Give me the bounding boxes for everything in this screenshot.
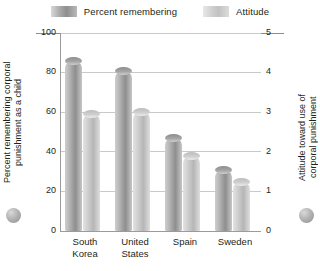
bar-cap-icon (83, 110, 100, 118)
right-axis-tick-2: 2 (266, 146, 292, 156)
legend-item-attitude: Attitude (203, 6, 269, 17)
bar-cap-icon (165, 134, 182, 142)
bar-group-spain (164, 33, 208, 231)
x-axis-categories: SouthKorea UnitedStates Spain Sweden (60, 236, 260, 259)
bar-percent-south-korea (65, 61, 82, 231)
left-axis-tick-40: 40 (30, 146, 56, 156)
chart-legend: Percent remembering Attitude (0, 6, 320, 17)
bar-percent-sweden (215, 170, 232, 231)
x-axis-label-spain: Spain (163, 236, 207, 259)
chart-figure: Percent remembering Attitude 100 80 60 4… (0, 0, 320, 271)
right-axis-tick-5: 5 (266, 27, 292, 37)
left-axis-tick-100: 100 (30, 27, 56, 37)
bar-cap-icon (183, 152, 200, 160)
bar-cap-icon (215, 166, 232, 174)
legend-label-attitude: Attitude (236, 6, 269, 17)
bar-attitude-spain (183, 156, 200, 231)
legend-label-percent-remembering: Percent remembering (84, 6, 177, 17)
x-axis-label-south-korea: SouthKorea (63, 236, 107, 259)
bar-percent-spain (165, 138, 182, 231)
left-axis-title: Percent remembering corporal punishment … (2, 42, 23, 202)
legend-swatch-percent-remembering (51, 6, 77, 17)
bar-attitude-united-states (133, 112, 150, 231)
x-axis-label-united-states: UnitedStates (113, 236, 157, 259)
bar-cap-icon (115, 67, 132, 75)
left-axis-tick-60: 60 (30, 106, 56, 116)
right-axis-title: Attitude toward use of corporal punishme… (297, 62, 318, 212)
bar-group-united-states (114, 33, 158, 231)
right-axis-sphere-icon (299, 208, 314, 223)
legend-swatch-attitude (203, 6, 229, 17)
bar-attitude-south-korea (83, 114, 100, 231)
right-axis-tick-1: 1 (266, 185, 292, 195)
x-axis-label-sweden: Sweden (213, 236, 257, 259)
legend-item-percent-remembering: Percent remembering (51, 6, 177, 17)
bar-groups (61, 33, 261, 231)
left-axis-tick-0: 0 (30, 225, 56, 235)
left-axis-tick-20: 20 (30, 185, 56, 195)
bar-cap-icon (133, 108, 150, 116)
bar-group-south-korea (64, 33, 108, 231)
bar-attitude-sweden (233, 182, 250, 232)
left-axis-tick-80: 80 (30, 66, 56, 76)
right-axis-tick-0: 0 (266, 225, 292, 235)
bar-cap-icon (65, 57, 82, 65)
bar-cap-icon (233, 178, 250, 186)
right-axis-tick-3: 3 (266, 106, 292, 116)
left-axis-sphere-icon (6, 208, 21, 223)
plot-area (60, 33, 261, 232)
bar-percent-united-states (115, 71, 132, 231)
bar-group-sweden (214, 33, 258, 231)
right-axis-tick-4: 4 (266, 66, 292, 76)
